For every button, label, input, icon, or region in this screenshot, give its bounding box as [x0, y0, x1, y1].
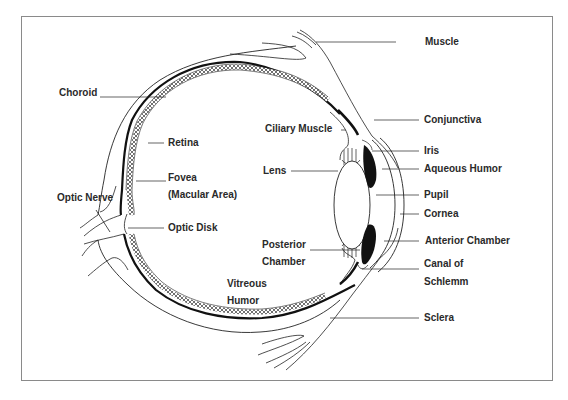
label-vitreous: Vitreous — [227, 278, 267, 290]
bottom-muscle — [258, 258, 380, 370]
label-ciliary-muscle: Ciliary Muscle — [265, 123, 332, 135]
label-lens: Lens — [263, 165, 286, 177]
label-muscle: Muscle — [425, 36, 459, 48]
label-schlemm: Schlemm — [424, 276, 468, 288]
label-posterior: Posterior — [262, 239, 306, 251]
label-sclera: Sclera — [424, 312, 454, 324]
label-humor: Humor — [227, 295, 259, 307]
label-anterior-chamber: Anterior Chamber — [425, 235, 510, 247]
label-conjunctiva: Conjunctiva — [424, 114, 481, 126]
label-pupil: Pupil — [424, 189, 448, 201]
label-fovea: Fovea — [168, 172, 197, 184]
label-optic-nerve: Optic Nerve — [57, 192, 113, 204]
label-retina: Retina — [168, 137, 199, 149]
label-choroid: Choroid — [59, 87, 97, 99]
label-chamber: Chamber — [262, 256, 305, 268]
label-canal-of: Canal of — [424, 258, 463, 270]
label-optic-disk: Optic Disk — [168, 222, 217, 234]
label-iris: Iris — [424, 145, 439, 157]
label-cornea: Cornea — [424, 208, 458, 220]
label-macular-area: (Macular Area) — [168, 189, 237, 201]
label-aqueous-humor: Aqueous Humor — [424, 163, 502, 175]
